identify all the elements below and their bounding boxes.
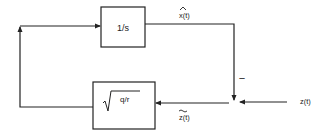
estimate-label: x(t) [179,7,190,20]
integrator-label: 1/s [117,23,130,33]
svg-text:x(t): x(t) [179,11,190,20]
gain-label: q/r [120,95,130,104]
innovation-label: z(t) [179,110,190,122]
block-diagram: 1/s q/r − x(t) z(t) z(t) [0,0,333,139]
minus-sign: − [239,72,245,84]
feedback-signal-line [20,27,93,107]
svg-text:z(t): z(t) [179,113,190,122]
estimate-signal-line [145,24,234,100]
integrator-block: 1/s [101,7,145,47]
measurement-label: z(t) [300,97,311,106]
gain-block: q/r [93,82,155,129]
